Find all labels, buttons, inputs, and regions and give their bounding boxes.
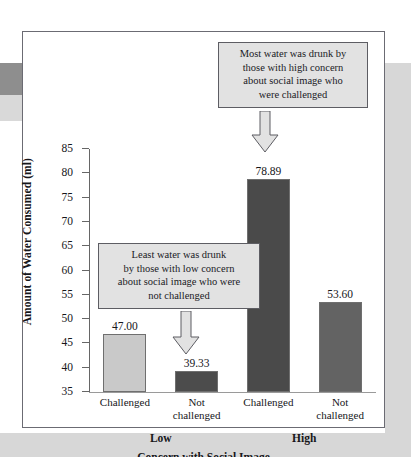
x-axis-tick-label: Notchallenged xyxy=(295,396,385,422)
y-axis-tick: 80 xyxy=(82,172,89,173)
y-axis-tick-label: 70 xyxy=(62,215,74,227)
y-axis-tick-label: 40 xyxy=(62,360,74,372)
x-axis-group-label: Low xyxy=(111,432,211,444)
y-axis-tick: 70 xyxy=(82,221,89,222)
figure-page: Amount of Water Consumed (ml) 3540455055… xyxy=(0,0,411,457)
x-axis-group-label: High xyxy=(254,432,354,444)
annotation-line: not challenged xyxy=(105,289,253,303)
bar-value-label: 47.00 xyxy=(112,320,138,332)
annotation-low-not-challenged: Least water was drunk by those with low … xyxy=(98,243,260,309)
y-axis-tick: 45 xyxy=(82,342,89,343)
chart-figure-card: Amount of Water Consumed (ml) 3540455055… xyxy=(22,31,385,428)
bar: 47.00 xyxy=(103,334,146,392)
y-axis-tick-label: 45 xyxy=(62,336,74,348)
bar-value-label: 39.33 xyxy=(184,357,210,369)
annotation-arrow-low-not-challenged xyxy=(171,311,201,355)
y-axis-tick: 35 xyxy=(82,391,89,392)
annotation-line: Most water was drunk by xyxy=(225,47,361,61)
y-axis-tick: 50 xyxy=(82,318,89,319)
annotation-line: were challenged xyxy=(225,88,361,102)
y-axis-tick-label: 55 xyxy=(62,288,74,300)
y-axis-tick: 85 xyxy=(82,148,89,149)
y-axis-tick: 60 xyxy=(82,270,89,271)
x-axis-tick-label-line: challenged xyxy=(295,409,385,422)
annotation-high-challenged: Most water was drunk by those with high … xyxy=(218,42,368,108)
y-axis-tick: 65 xyxy=(82,245,89,246)
y-axis-tick-label: 65 xyxy=(62,239,74,251)
annotation-line: Least water was drunk xyxy=(105,248,253,262)
y-axis-title: Amount of Water Consumed (ml) xyxy=(21,158,33,325)
annotation-line: those with high concern xyxy=(225,61,361,75)
y-axis-tick-label: 80 xyxy=(62,166,74,178)
annotation-line: about social image who were xyxy=(105,275,253,289)
y-axis-tick-label: 35 xyxy=(62,385,74,397)
annotation-line: by those with low concern xyxy=(105,262,253,276)
y-axis-tick-label: 85 xyxy=(62,142,74,154)
annotation-line: about social image who xyxy=(225,74,361,88)
page-edge-band-right xyxy=(385,63,411,457)
bar: 53.60 xyxy=(319,302,362,392)
bar: 39.33 xyxy=(175,371,218,392)
y-axis-tick-label: 50 xyxy=(62,312,74,324)
bar-value-label: 78.89 xyxy=(255,165,281,177)
annotation-arrow-high-challenged xyxy=(250,111,280,153)
x-axis-tick-label-line: challenged xyxy=(152,409,242,422)
y-axis-tick-label: 60 xyxy=(62,263,74,275)
x-axis-title: Concern with Social Image xyxy=(23,451,384,457)
x-axis-tick-label-line: Not xyxy=(295,396,385,409)
y-axis-tick-label: 75 xyxy=(62,190,74,202)
y-axis-tick: 75 xyxy=(82,197,89,198)
y-axis-tick: 55 xyxy=(82,294,89,295)
y-axis-tick: 40 xyxy=(82,367,89,368)
bar-value-label: 53.60 xyxy=(327,288,353,300)
x-axis-line xyxy=(89,392,376,393)
